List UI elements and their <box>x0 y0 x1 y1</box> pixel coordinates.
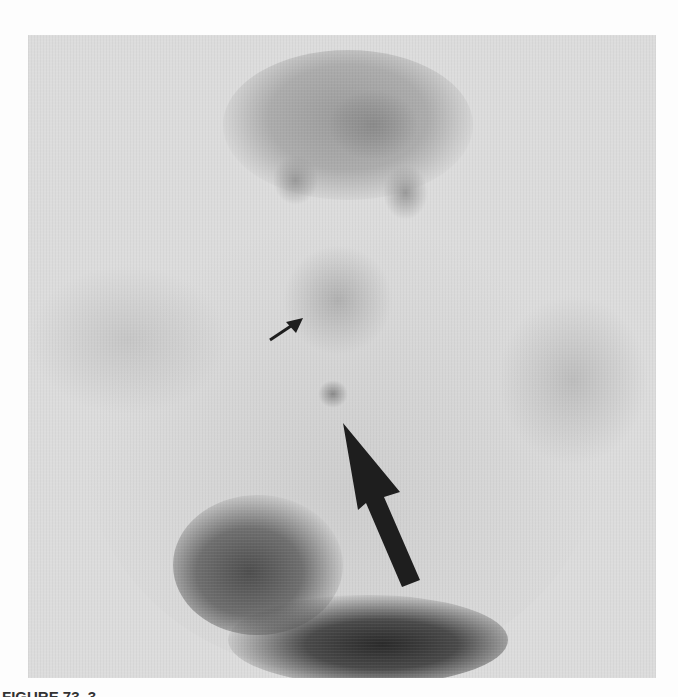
large-arrow-icon <box>343 423 420 587</box>
figure-caption: FIGURE 73. 3 <box>0 686 678 697</box>
annotation-arrows <box>0 0 678 697</box>
small-arrow-icon <box>270 318 303 340</box>
